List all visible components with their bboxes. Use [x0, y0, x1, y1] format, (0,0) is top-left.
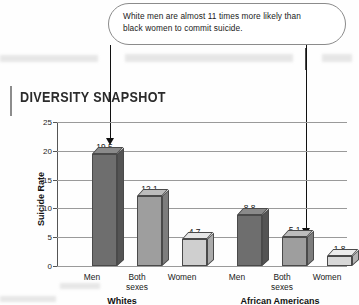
chart: Suicide Rate 25 20 15 10 5: [0, 118, 358, 305]
callout-box: White men are almost 11 times more likel…: [108, 3, 346, 45]
y-axis-label: 5: [48, 233, 52, 242]
title-accent-rule: [10, 86, 12, 116]
group-label-whites: Whites: [92, 296, 152, 305]
y-tick: [53, 122, 57, 123]
y-tick: [53, 151, 57, 152]
bar-african-americans-men: 8.8: [237, 215, 262, 266]
bar-side-face: [117, 147, 124, 266]
category-label-whites-women: Women: [164, 272, 200, 282]
y-tick: [53, 237, 57, 238]
bar-side-face: [307, 230, 314, 266]
category-label-african-americans-women: Women: [309, 272, 345, 282]
category-label-text: Women: [168, 272, 197, 282]
bar-african-americans-women: 1.8: [327, 256, 352, 266]
bar-front-face: [237, 215, 262, 266]
y-tick: [53, 266, 57, 267]
y-axis-label: 25: [43, 118, 52, 127]
background-text-strip: [125, 54, 293, 62]
bar-whites-men: 19.5: [92, 154, 117, 266]
bar-front-face: [182, 239, 207, 266]
bar-whites-women: 4.7: [182, 239, 207, 266]
background-text-strip: [0, 55, 98, 62]
category-label-african-americans-men: Men: [222, 272, 252, 282]
category-label-text-line1: Both: [128, 272, 145, 282]
callout-line-1: White men are almost 11 times more likel…: [123, 11, 331, 23]
category-label-text: Women: [313, 272, 342, 282]
bar-front-face: [92, 154, 117, 266]
category-label-whites-men: Men: [77, 272, 107, 282]
bar-front-face: [327, 256, 352, 266]
background-text-strip: [322, 54, 352, 62]
y-axis-label: 10: [43, 204, 52, 213]
category-label-whites-both-sexes: Both sexes: [122, 272, 152, 292]
y-axis-label: 15: [43, 175, 52, 184]
category-label-text-line2: sexes: [271, 282, 293, 292]
category-label-text-line2: sexes: [126, 282, 148, 292]
category-label-text: Men: [84, 272, 100, 282]
page-title: DIVERSITY SNAPSHOT: [20, 88, 166, 105]
gridline: 25: [57, 122, 347, 123]
bar-front-face: [282, 237, 307, 266]
callout-line-2: black women to commit suicide.: [123, 23, 331, 35]
category-label-text-line1: Both: [273, 272, 290, 282]
gridline: 0: [57, 266, 347, 267]
y-tick: [53, 180, 57, 181]
plot-area: 25 20 15 10 5 0: [57, 122, 347, 266]
y-axis-label: 0: [48, 262, 52, 271]
bar-side-face: [162, 190, 169, 266]
bar-whites-both-sexes: 12.1: [137, 196, 162, 266]
y-tick: [53, 208, 57, 209]
bar-african-americans-both-sexes: 5.1: [282, 237, 307, 266]
y-axis-label: 20: [43, 146, 52, 155]
bar-side-face: [262, 209, 269, 266]
group-label-african-americans: African Americans: [225, 296, 335, 305]
category-label-text: Men: [229, 272, 245, 282]
bar-side-face: [207, 233, 214, 266]
category-label-african-americans-both-sexes: Both sexes: [267, 272, 297, 292]
bar-front-face: [137, 196, 162, 266]
